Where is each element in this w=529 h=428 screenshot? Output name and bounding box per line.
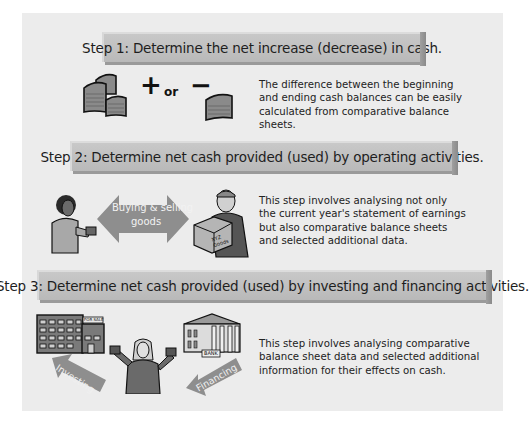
for-sale-sign: FOR SALE [84, 317, 104, 322]
step-1-heading: Step 1: Determine the net increase (decr… [102, 32, 420, 62]
plus-sign: + [140, 70, 162, 100]
step-2-description: This step involves analysing not only th… [259, 194, 466, 247]
step-1-title: Step 1: Determine the net increase (decr… [82, 40, 442, 56]
person-holding-cash-icon [108, 338, 178, 394]
cash-stacks-icon [80, 70, 148, 118]
step-3-title: Step 3: Determine net cash provided (use… [0, 278, 529, 294]
step-2-heading: Step 2: Determine net cash provided (use… [70, 141, 452, 171]
buyer-person-icon [48, 193, 98, 255]
cash-stack-icon [204, 92, 236, 122]
step-2-title: Step 2: Determine net cash provided (use… [40, 149, 483, 165]
step-3-description: This step involves analysing comparative… [259, 337, 479, 377]
step-1-description: The difference between the beginning and… [259, 78, 462, 131]
arrow-label-line2: goods [131, 216, 161, 227]
seller-person-icon [192, 187, 252, 259]
arrow-label-line1: Buying & selling [112, 202, 193, 213]
step-3-heading: Step 3: Determine net cash provided (use… [37, 270, 486, 300]
or-label: or [164, 85, 178, 99]
